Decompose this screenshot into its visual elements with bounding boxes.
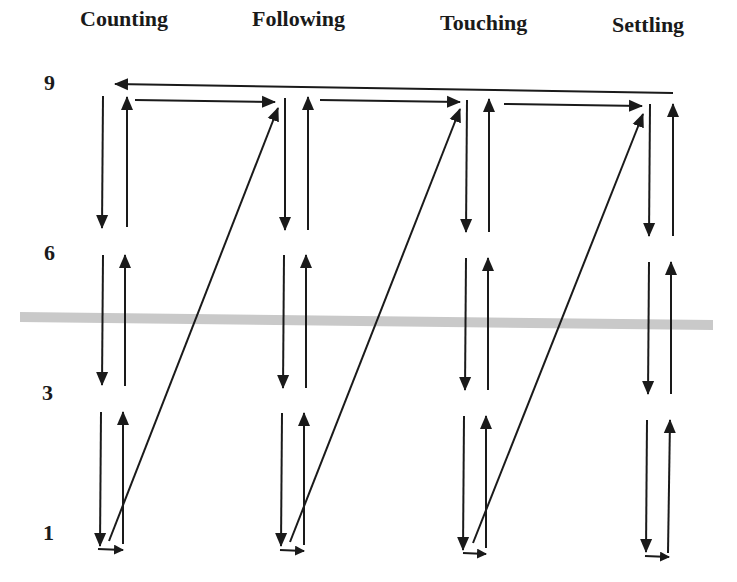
- threshold-band: [20, 312, 713, 330]
- down-arrow-touching-9-6: [466, 100, 467, 232]
- down-arrow-counting-6-3: [102, 255, 103, 385]
- arrow-following-to-touching: [320, 100, 460, 102]
- down-arrow-following-3-1: [281, 413, 282, 546]
- down-arrow-touching-3-1: [463, 416, 464, 550]
- down-arrow-counting-9-6: [102, 96, 103, 228]
- bottom-arrow-following: [280, 550, 304, 551]
- arrow-touching-to-settling: [504, 104, 642, 106]
- flow-diagram: [0, 0, 737, 582]
- return-arrow-settling-to-counting: [115, 84, 673, 93]
- down-arrow-settling-9-6: [649, 104, 650, 236]
- down-arrow-counting-3-1: [100, 412, 101, 546]
- bottom-arrow-touching: [463, 553, 486, 554]
- down-arrow-settling-3-1: [646, 420, 647, 552]
- down-arrow-following-6-3: [283, 255, 284, 388]
- bottom-arrow-settling: [645, 556, 669, 557]
- down-arrow-touching-6-3: [465, 258, 466, 390]
- bottom-arrow-counting: [98, 549, 123, 550]
- up-arrow-settling-1-3: [668, 420, 670, 553]
- down-arrow-settling-6-3: [648, 262, 649, 394]
- arrow-counting-to-following: [135, 100, 275, 102]
